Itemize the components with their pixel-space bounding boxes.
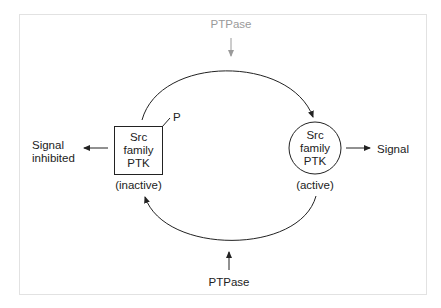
- activation-arc-arrow: [142, 71, 313, 120]
- inactive-state-label: (inactive): [115, 179, 162, 191]
- phosphate-label: P: [173, 111, 181, 123]
- top-ptpase-label: PTPase: [211, 18, 252, 30]
- phosphate-bond-line: [162, 118, 170, 127]
- active-ptk-line-2: family: [300, 142, 330, 154]
- active-state-label: (active): [296, 179, 334, 191]
- bottom-ptpase-label: PTPase: [209, 276, 250, 288]
- active-ptk-line-1: Src: [306, 129, 324, 141]
- signal-inhibited-line-2: inhibited: [32, 152, 75, 164]
- signal-label: Signal: [377, 143, 409, 155]
- diagram-frame: [20, 15, 427, 295]
- active-ptk-line-3: PTK: [304, 155, 327, 167]
- src-ptk-regulation-diagram: PTPase PTPase Src family PTK (inactive) …: [0, 0, 441, 308]
- inactivation-arc-arrow: [145, 196, 316, 240]
- inactive-ptk-line-3: PTK: [127, 157, 150, 169]
- inactive-ptk-line-1: Src: [130, 131, 148, 143]
- inactive-ptk-line-2: family: [123, 144, 153, 156]
- signal-inhibited-line-1: Signal: [32, 139, 64, 151]
